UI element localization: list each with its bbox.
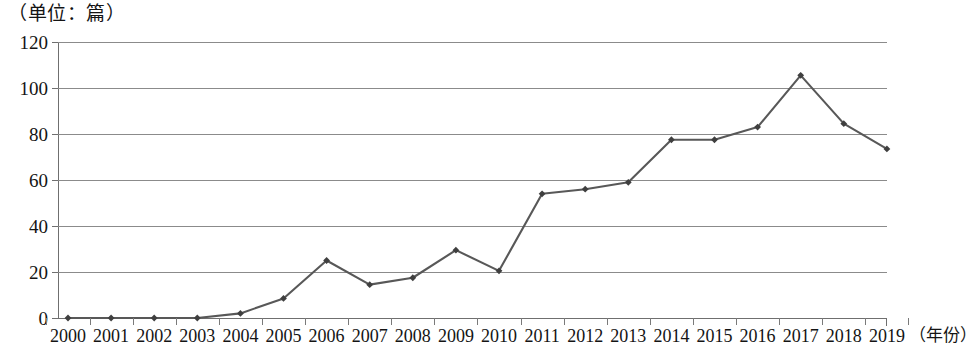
x-axis-tick xyxy=(90,318,91,325)
x-tick-label-2004: 2004 xyxy=(222,326,258,346)
x-tick-label-2017: 2017 xyxy=(783,326,819,346)
x-tick-label-2003: 2003 xyxy=(179,326,215,346)
x-tick-label-2007: 2007 xyxy=(352,326,388,346)
x-axis-tick xyxy=(822,318,823,325)
x-tick-label-2016: 2016 xyxy=(740,326,776,346)
y-tick-label: 100 xyxy=(0,79,48,98)
x-axis-tick xyxy=(908,318,909,325)
x-tick-label-2005: 2005 xyxy=(266,326,302,346)
x-tick-label-2008: 2008 xyxy=(395,326,431,346)
x-tick-label-2012: 2012 xyxy=(567,326,603,346)
gridline-40 xyxy=(58,226,887,227)
chart-unit-caption: （单位：篇） xyxy=(8,2,125,26)
y-tick-label: 80 xyxy=(0,125,48,144)
x-tick-label-2011: 2011 xyxy=(524,326,559,346)
x-axis-tick xyxy=(262,318,263,325)
x-axis-tick xyxy=(176,318,177,325)
gridline-80 xyxy=(58,134,887,135)
x-tick-label-2000: 2000 xyxy=(50,326,86,346)
x-axis-unit-label: （年份） xyxy=(909,326,970,346)
x-axis-tick xyxy=(779,318,780,325)
x-axis-tick xyxy=(736,318,737,325)
x-axis-tick xyxy=(521,318,522,325)
x-tick-label-2002: 2002 xyxy=(136,326,172,346)
plot-area xyxy=(58,42,887,318)
x-axis-tick xyxy=(133,318,134,325)
x-axis-tick xyxy=(219,318,220,325)
x-axis-tick xyxy=(607,318,608,325)
x-tick-label-2013: 2013 xyxy=(610,326,646,346)
y-tick-label: 40 xyxy=(0,217,48,236)
gridline-0-baseline xyxy=(58,318,887,319)
x-axis-tick xyxy=(46,318,47,325)
gridline-60 xyxy=(58,180,887,181)
y-tick-label: 120 xyxy=(0,33,48,52)
x-tick-label-2018: 2018 xyxy=(826,326,862,346)
y-tick-label: 60 xyxy=(0,171,48,190)
x-axis-tick xyxy=(693,318,694,325)
gridline-20 xyxy=(58,272,887,273)
x-tick-label-2001: 2001 xyxy=(93,326,129,346)
x-axis-tick xyxy=(305,318,306,325)
x-axis-tick xyxy=(391,318,392,325)
x-axis-end-cap xyxy=(886,318,887,326)
x-axis-tick xyxy=(434,318,435,325)
y-tick-label: 0 xyxy=(0,309,48,328)
x-tick-label-2010: 2010 xyxy=(481,326,517,346)
x-tick-label-2015: 2015 xyxy=(697,326,733,346)
x-tick-label-2009: 2009 xyxy=(438,326,474,346)
y-axis-tick-labels: 120 100 80 60 40 20 0 xyxy=(0,42,48,318)
x-axis-tick xyxy=(477,318,478,325)
x-tick-label-2014: 2014 xyxy=(653,326,689,346)
y-tick-label: 20 xyxy=(0,263,48,282)
gridline-120 xyxy=(58,42,887,43)
x-axis-tick xyxy=(564,318,565,325)
gridline-100 xyxy=(58,88,887,89)
x-tick-label-2019: 2019 xyxy=(869,326,905,346)
x-axis-tick xyxy=(650,318,651,325)
x-tick-label-2006: 2006 xyxy=(309,326,345,346)
x-axis-tick xyxy=(865,318,866,325)
x-axis-tick xyxy=(348,318,349,325)
